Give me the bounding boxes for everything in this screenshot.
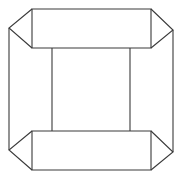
frame-diagram — [0, 0, 181, 181]
bottom-right-chamfer — [151, 131, 173, 170]
bottom-left-chamfer — [9, 131, 32, 170]
bottom-band-rect — [32, 131, 151, 170]
top-band — [9, 9, 173, 48]
bottom-band — [9, 131, 173, 170]
top-band-rect — [32, 9, 151, 48]
top-left-chamfer — [9, 9, 32, 48]
diagram-canvas — [0, 0, 181, 181]
top-right-chamfer — [151, 9, 173, 48]
